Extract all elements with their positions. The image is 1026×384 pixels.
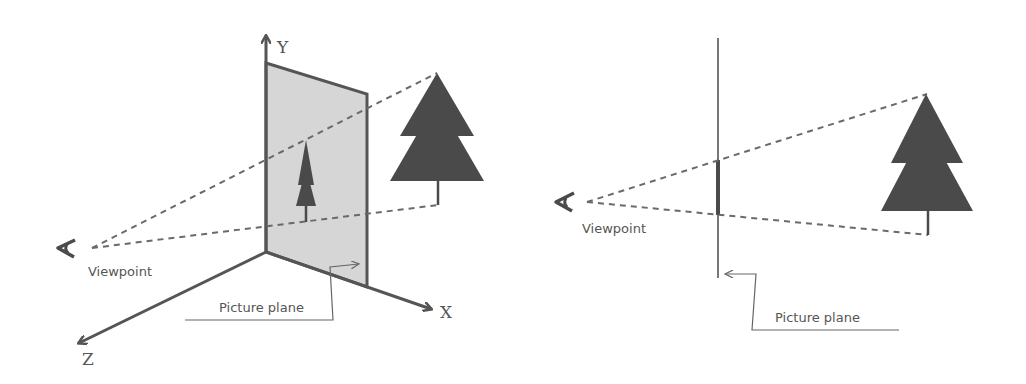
y-axis-label: Y bbox=[276, 37, 289, 57]
picture-plane bbox=[266, 63, 367, 287]
eye-icon bbox=[556, 193, 574, 211]
sight-line-top bbox=[587, 94, 927, 202]
picture-plane-label: Picture plane bbox=[219, 300, 304, 315]
eye-icon bbox=[58, 240, 75, 257]
left-3d-diagram: Y X Z Viewpoint Picture plane bbox=[58, 36, 484, 369]
viewpoint-label: Viewpoint bbox=[88, 264, 152, 279]
tree-object bbox=[881, 94, 973, 235]
right-side-diagram: Viewpoint Picture plane bbox=[556, 38, 973, 330]
z-axis-label: Z bbox=[82, 349, 94, 369]
viewpoint-label: Viewpoint bbox=[582, 221, 646, 236]
x-axis-label: X bbox=[440, 302, 453, 322]
picture-plane-label: Picture plane bbox=[775, 310, 860, 325]
perspective-diagram: Y X Z Viewpoint Picture plane bbox=[0, 0, 1026, 384]
tree-object bbox=[390, 73, 484, 205]
